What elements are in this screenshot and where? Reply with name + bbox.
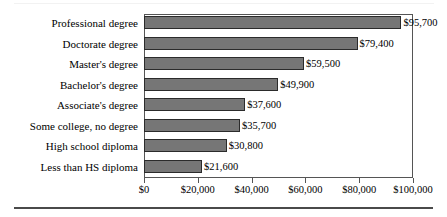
category-label: Doctorate degree [0,35,141,56]
bar [144,139,227,152]
bar-row: $37,600 [144,96,413,117]
bar-value-label: $21,600 [204,158,238,175]
category-label: Bachelor's degree [0,76,141,97]
bar [144,98,245,111]
bar [144,16,401,29]
bar [144,78,278,91]
bar-value-label: $30,800 [229,137,263,154]
x-axis-tick-label: $20,000 [181,183,215,197]
bar-row: $59,500 [144,55,413,76]
bar [144,160,202,173]
figure-container: Professional degree Doctorate degree Mas… [0,0,447,217]
bar-value-label: $59,500 [306,55,340,72]
x-axis-tick-label: $40,000 [235,183,269,197]
bar-chart: Professional degree Doctorate degree Mas… [0,0,447,200]
x-axis-tick-labels: $0$20,000$40,000$60,000$80,000$100,000 [0,183,447,199]
x-axis-tick-label: $0 [139,183,150,197]
category-label: Some college, no degree [0,117,141,138]
category-label: Master's degree [0,55,141,76]
bar-row: $21,600 [144,158,413,179]
bottom-divider-rule [14,207,433,209]
bar-rows: $95,700 $79,400 $59,500 $49,900 $37,600 … [144,14,413,178]
bar-value-label: $95,700 [403,14,437,31]
category-label: Less than HS diploma [0,158,141,179]
bar [144,119,240,132]
category-label: Associate's degree [0,96,141,117]
bar-row: $49,900 [144,76,413,97]
bar-row: $30,800 [144,137,413,158]
bar-value-label: $35,700 [242,117,276,134]
bar [144,57,304,70]
x-axis-tick-label: $100,000 [393,183,432,197]
bar-row: $79,400 [144,35,413,56]
bar-value-label: $49,900 [280,76,314,93]
bar-row: $35,700 [144,117,413,138]
bar-value-label: $79,400 [360,35,394,52]
bar-value-label: $37,600 [247,96,281,113]
category-axis-labels: Professional degree Doctorate degree Mas… [0,14,141,178]
x-axis-tick-label: $60,000 [288,183,322,197]
bar [144,37,358,50]
category-label: High school diploma [0,137,141,158]
category-label: Professional degree [0,14,141,35]
x-axis-tick-label: $80,000 [342,183,376,197]
bar-row: $95,700 [144,14,413,35]
